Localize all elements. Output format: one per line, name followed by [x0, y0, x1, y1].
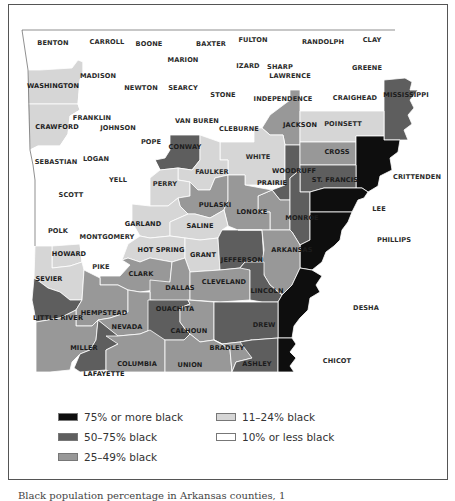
label-lincoln: LINCOLN — [250, 287, 283, 295]
label-searcy: SEARCY — [168, 84, 198, 92]
legend-label: 50–75% black — [84, 431, 157, 443]
label-clark: CLARK — [129, 270, 155, 278]
label-scott: SCOTT — [59, 191, 84, 199]
label-independence: INDEPENDENCE — [254, 95, 313, 103]
label-pulaski: PULASKI — [199, 201, 232, 209]
label-cleburne: CLEBURNE — [219, 125, 259, 133]
label-logan: LOGAN — [83, 155, 109, 163]
county-boone — [131, 30, 166, 66]
label-pope: POPE — [141, 138, 162, 146]
legend-swatch — [216, 413, 236, 421]
legend-item-25-49: 25–49% black — [58, 450, 157, 464]
label-drew: DREW — [253, 321, 276, 329]
county-benton — [22, 30, 83, 70]
label-lafayette: LAFAYETTE — [83, 370, 125, 378]
label-nevada: NEVADA — [112, 323, 144, 331]
label-perry: PERRY — [153, 180, 178, 188]
legend-swatch — [216, 433, 236, 441]
label-mississippi: MISSISSIPPI — [383, 91, 429, 99]
legend-item-10less: 10% or less black — [216, 430, 334, 444]
label-marion: MARION — [168, 56, 199, 64]
label-washington: WASHINGTON — [27, 82, 79, 90]
legend-swatch — [58, 433, 78, 441]
label-carroll: CARROLL — [90, 38, 126, 46]
label-lawrence: LAWRENCE — [269, 72, 311, 80]
figure-caption: Black population percentage in Arkansas … — [18, 490, 285, 501]
label-jefferson: JEFFERSON — [220, 256, 263, 264]
label-newton: NEWTON — [124, 84, 158, 92]
legend-item-75plus: 75% or more black — [58, 410, 183, 424]
county-chicot — [278, 338, 296, 372]
legend-label: 11–24% black — [242, 411, 315, 423]
label-benton: BENTON — [37, 39, 68, 47]
label-madison: MADISON — [80, 72, 116, 80]
label-boone: BOONE — [136, 40, 163, 48]
label-woodruff: WOODRUFF — [272, 167, 316, 175]
label-greene: GREENE — [352, 64, 383, 72]
legend-label: 25–49% black — [84, 451, 157, 463]
label-howard: HOWARD — [52, 250, 87, 258]
label-stfrancis: ST. FRANCIS — [312, 176, 359, 184]
label-crittenden: CRITTENDEN — [393, 173, 441, 181]
label-hempstead: HEMPSTEAD — [81, 309, 128, 317]
label-desha: DESHA — [353, 304, 380, 312]
county-mississippi — [384, 78, 418, 140]
label-sevier: SEVIER — [36, 275, 63, 283]
label-randolph: RANDOLPH — [302, 38, 344, 46]
county-lee — [310, 188, 368, 212]
label-littleriver: LITTLE RIVER — [33, 314, 83, 322]
label-arkansas: ARKANSAS — [271, 246, 312, 254]
label-sharp: SHARP — [267, 63, 293, 71]
label-polk: POLK — [48, 227, 69, 235]
county-crittenden — [356, 136, 400, 192]
label-cross: CROSS — [324, 148, 349, 156]
map-legend: 75% or more black 50–75% black 25–49% bl… — [58, 410, 398, 470]
label-crawford: CRAWFORD — [35, 123, 79, 131]
label-craighead: CRAIGHEAD — [333, 94, 378, 102]
label-columbia: COLUMBIA — [117, 360, 158, 368]
legend-swatch — [58, 453, 78, 461]
label-cleveland: CLEVELAND — [202, 278, 247, 286]
label-jackson: JACKSON — [282, 121, 317, 129]
label-izard: IZARD — [236, 62, 260, 70]
label-calhoun: CALHOUN — [171, 327, 208, 335]
label-white: WHITE — [246, 153, 271, 161]
legend-label: 10% or less black — [242, 431, 334, 443]
label-faulker: FAULKER — [195, 168, 229, 176]
label-franklin: FRANKLIN — [73, 114, 111, 122]
label-lee: LEE — [372, 205, 386, 213]
label-yell: YELL — [108, 176, 128, 184]
label-vanburen: VAN BUREN — [175, 117, 219, 125]
label-miller: MILLER — [70, 344, 98, 352]
label-prairie: PRAIRIE — [257, 179, 288, 187]
label-pike: PIKE — [92, 263, 110, 271]
label-baxter: BAXTER — [196, 40, 226, 48]
legend-swatch — [58, 413, 78, 421]
label-clay: CLAY — [363, 36, 382, 44]
label-fulton: FULTON — [238, 36, 267, 44]
label-grant: GRANT — [190, 251, 217, 259]
label-chicot: CHICOT — [323, 357, 352, 365]
label-garland: GARLAND — [125, 220, 162, 228]
label-sebastian: SEBASTIAN — [35, 158, 78, 166]
label-monroe: MONROE — [285, 214, 319, 222]
legend-label: 75% or more black — [84, 411, 183, 423]
legend-item-50-75: 50–75% black — [58, 430, 157, 444]
label-saline: SALINE — [186, 222, 214, 230]
legend-item-11-24: 11–24% black — [216, 410, 315, 424]
label-johnson: JOHNSON — [99, 124, 136, 132]
label-poinsett: POINSETT — [324, 120, 362, 128]
label-union: UNION — [178, 361, 203, 369]
label-conway: CONWAY — [169, 143, 202, 151]
label-hotspring: HOT SPRING — [138, 246, 185, 254]
label-montgomery: MONTGOMERY — [80, 233, 135, 241]
label-bradley: BRADLEY — [210, 344, 245, 352]
label-stone: STONE — [210, 91, 236, 99]
label-phillips: PHILLIPS — [377, 236, 411, 244]
label-lonoke: LONOKE — [237, 208, 268, 216]
label-ashley: ASHLEY — [242, 360, 272, 368]
label-ouachita: OUACHITA — [156, 305, 195, 313]
label-dallas: DALLAS — [165, 284, 195, 292]
